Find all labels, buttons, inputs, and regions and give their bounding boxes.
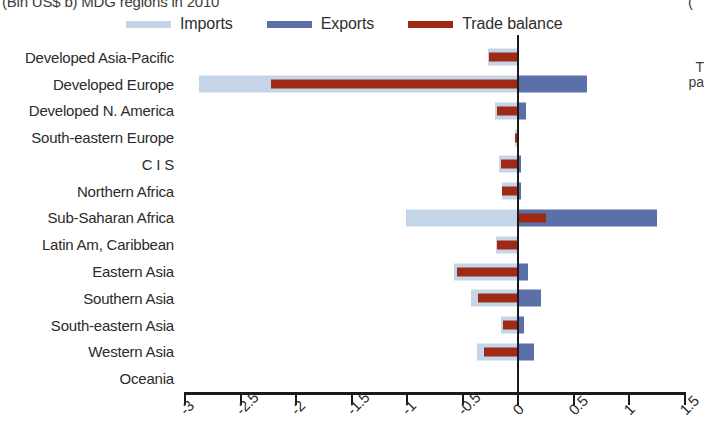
bar-row bbox=[185, 178, 685, 205]
bar-exports[interactable] bbox=[518, 263, 528, 280]
category-axis-labels: Developed Asia-PacificDeveloped EuropeDe… bbox=[0, 44, 179, 392]
plot-area bbox=[185, 44, 685, 392]
line-swatch-icon-exports bbox=[267, 21, 312, 28]
legend-label-exports: Exports bbox=[321, 15, 375, 33]
bar-exports[interactable] bbox=[518, 343, 534, 360]
bar-trade-balance[interactable] bbox=[497, 240, 518, 249]
chart-title-clipped: (Bln US$ b) MDG regions in 2010 bbox=[2, 0, 219, 10]
category-label: South-eastern Asia bbox=[0, 312, 179, 339]
line-swatch-icon-imports bbox=[126, 21, 171, 28]
legend-label-trade-balance: Trade balance bbox=[462, 15, 562, 33]
bar-row bbox=[185, 44, 685, 71]
category-label: South-eastern Europe bbox=[0, 124, 179, 151]
line-swatch-icon-trade-balance bbox=[408, 21, 453, 28]
category-label: Western Asia bbox=[0, 338, 179, 365]
category-label: Oceania bbox=[0, 365, 179, 392]
value-axis-tick-label: 0 bbox=[509, 400, 527, 418]
category-label: Sub-Saharan Africa bbox=[0, 205, 179, 232]
value-axis-tick-label: -1 bbox=[398, 397, 419, 418]
value-axis-tick-label: -2 bbox=[287, 397, 308, 418]
value-axis-tick-label: -3 bbox=[176, 397, 197, 418]
value-axis-tick-label: 0.5 bbox=[565, 392, 591, 418]
bar-exports[interactable] bbox=[518, 76, 587, 93]
bar-row bbox=[185, 338, 685, 365]
category-label: Developed Asia-Pacific bbox=[0, 44, 179, 71]
category-label: Developed Europe bbox=[0, 71, 179, 98]
bar-row bbox=[185, 365, 685, 392]
bar-exports[interactable] bbox=[518, 102, 526, 119]
bar-row bbox=[185, 231, 685, 258]
bar-trade-balance[interactable] bbox=[501, 160, 519, 169]
legend-item-imports[interactable]: Imports bbox=[126, 15, 233, 33]
bar-row bbox=[185, 285, 685, 312]
bar-trade-balance[interactable] bbox=[489, 53, 518, 62]
chart-page: (Bln US$ b) MDG regions in 2010 ( Import… bbox=[0, 0, 704, 443]
bar-trade-balance[interactable] bbox=[457, 267, 518, 276]
bar-trade-balance[interactable] bbox=[503, 321, 519, 330]
bar-row bbox=[185, 258, 685, 285]
bar-trade-balance[interactable] bbox=[484, 347, 518, 356]
value-axis-tick-label: 1.5 bbox=[676, 392, 702, 418]
bar-row bbox=[185, 98, 685, 125]
bar-exports[interactable] bbox=[518, 290, 540, 307]
bar-row bbox=[185, 124, 685, 151]
category-label: Northern Africa bbox=[0, 178, 179, 205]
legend-item-exports[interactable]: Exports bbox=[267, 15, 375, 33]
chart-legend: Imports Exports Trade balance bbox=[126, 12, 576, 36]
legend-label-imports: Imports bbox=[180, 15, 233, 33]
value-axis-tick-label: 1 bbox=[620, 400, 638, 418]
category-label: Eastern Asia bbox=[0, 258, 179, 285]
bar-row bbox=[185, 205, 685, 232]
bar-row bbox=[185, 71, 685, 98]
category-label: Developed N. America bbox=[0, 98, 179, 125]
category-label: C I S bbox=[0, 151, 179, 178]
bar-rows bbox=[185, 44, 685, 392]
bar-row bbox=[185, 312, 685, 339]
bar-trade-balance[interactable] bbox=[478, 294, 518, 303]
value-axis-line bbox=[185, 392, 685, 395]
bar-trade-balance[interactable] bbox=[271, 80, 519, 89]
bar-trade-balance[interactable] bbox=[502, 187, 519, 196]
zero-axis-line bbox=[517, 35, 519, 396]
bar-imports[interactable] bbox=[406, 209, 518, 226]
bar-trade-balance[interactable] bbox=[518, 213, 546, 222]
bar-trade-balance[interactable] bbox=[497, 106, 518, 115]
category-label: Latin Am, Caribbean bbox=[0, 231, 179, 258]
chart-title-right-clipped: ( bbox=[688, 0, 702, 10]
legend-item-trade-balance[interactable]: Trade balance bbox=[408, 15, 562, 33]
category-label: Southern Asia bbox=[0, 285, 179, 312]
bar-row bbox=[185, 151, 685, 178]
